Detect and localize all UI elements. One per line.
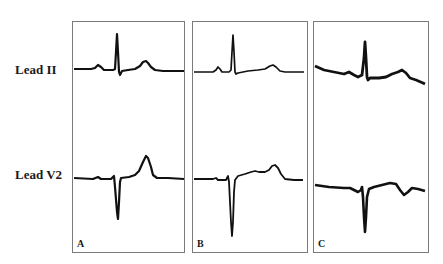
panel-letter-a: A [77, 238, 84, 249]
lead-v2-waveform [74, 156, 184, 219]
lead-ii-waveform [194, 35, 304, 74]
lead-v2-waveform [315, 183, 425, 232]
ecg-panel-b: B [192, 21, 308, 253]
ecg-trace-panel-a [73, 22, 186, 254]
lead-ii-waveform [74, 34, 184, 75]
lead-v2-label: Lead V2 [15, 167, 62, 183]
lead-ii-label: Lead II [15, 62, 57, 78]
ecg-panel-c: C [313, 21, 429, 253]
panel-letter-c: C [318, 238, 325, 249]
panel-letter-b: B [197, 238, 204, 249]
ecg-panel-a: A [72, 21, 185, 253]
ecg-trace-panel-c [314, 22, 430, 254]
lead-v2-waveform [194, 165, 303, 236]
lead-ii-waveform [315, 42, 425, 84]
ecg-trace-panel-b [193, 22, 309, 254]
